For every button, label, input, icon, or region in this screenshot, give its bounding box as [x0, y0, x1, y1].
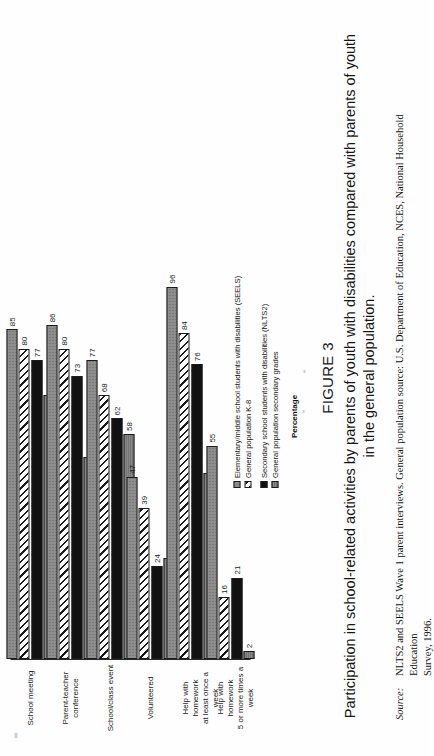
legend-item: Secondary school students with disabilit… — [259, 304, 268, 488]
bar-value-label: 77 — [31, 348, 42, 357]
bar-value-label: 85 — [6, 317, 17, 326]
bar-value-label: 47 — [126, 465, 137, 474]
bar-value-label: 68 — [98, 383, 109, 392]
bar-value-label: 24 — [151, 554, 162, 563]
bar-3-0 — [126, 477, 137, 659]
stipple-gray-swatch — [233, 481, 240, 488]
legend-item-label: General population secondary grades — [270, 351, 279, 478]
bar-4-2 — [191, 364, 202, 659]
bar-value-label: 80 — [18, 337, 29, 346]
legend-item-label: Elementary/middle school students with d… — [232, 276, 241, 478]
source-text-line-1: NLTS2 and SEELS Wave 1 parent interviews… — [392, 76, 420, 676]
bar-5-2 — [231, 578, 242, 659]
bar-5-0 — [206, 446, 217, 659]
legend-column-2: Secondary school students with disabilit… — [259, 304, 281, 488]
bar-value-label: 96 — [166, 275, 177, 284]
bar-2-0 — [86, 360, 97, 659]
bar-1-0 — [46, 325, 57, 659]
bar-5-3 — [243, 651, 254, 659]
bar-value-label: 2 — [243, 644, 254, 648]
figure-caption: Participation in school-related activiti… — [340, 32, 378, 720]
bar-5-1 — [218, 597, 229, 659]
category-label-3: Volunteered — [145, 662, 155, 734]
legend-item-label: General population K-8 — [243, 400, 252, 478]
bar-value-label: 55 — [206, 434, 217, 443]
bar-value-label: 86 — [46, 313, 57, 322]
category-label-0: School meeting — [25, 662, 35, 734]
bar-value-label: 77 — [86, 348, 97, 357]
value-axis-line — [10, 659, 250, 660]
bar-1-1 — [58, 349, 69, 659]
bar-value-label: 62 — [111, 407, 122, 416]
bar-3-2 — [151, 566, 162, 659]
legend-item: General population secondary grades — [270, 304, 279, 488]
category-label-2: School/class event — [105, 662, 115, 734]
bar-value-label: 84 — [178, 321, 189, 330]
plot-area: 8580776886807352776862584739242696847648… — [10, 272, 250, 660]
figure-number: FIGURE 3 — [318, 0, 335, 756]
category-label-4: Help with homeworkat least once a week — [180, 662, 220, 734]
bar-value-label: 39 — [138, 496, 149, 505]
bar-value-label: 76 — [191, 352, 202, 361]
bar-value-label: 21 — [231, 566, 242, 575]
bar-4-1 — [178, 333, 189, 659]
x-axis-title: Percentage — [289, 395, 298, 438]
solid-black-swatch — [260, 481, 267, 488]
solid-gray-swatch — [271, 481, 278, 488]
bar-2-1 — [98, 395, 109, 659]
white-hatch-swatch — [244, 481, 251, 488]
scan-speck — [303, 370, 305, 373]
bar-1-2 — [71, 376, 82, 659]
legend-item: Elementary/middle school students with d… — [232, 276, 241, 488]
legend-column-1: Elementary/middle school students with d… — [232, 276, 254, 488]
bar-value-label: 16 — [218, 585, 229, 594]
figure-source-note: Source:NLTS2 and SEELS Wave 1 parent int… — [392, 20, 434, 720]
category-label-5: Help with homework5 or more times aweek — [215, 662, 255, 734]
bar-4-0 — [166, 287, 177, 659]
bar-0-0 — [6, 329, 17, 659]
source-text-line-2: Survey, 1996. — [420, 20, 434, 676]
bar-0-2 — [31, 360, 42, 659]
bar-3-1 — [138, 508, 149, 659]
legend-item: General population K-8 — [243, 276, 252, 488]
bar-value-label: 73 — [71, 364, 82, 373]
bar-value-label: 80 — [58, 337, 69, 346]
scan-speck — [302, 410, 304, 413]
bar-2-2 — [111, 418, 122, 659]
source-label: Source: — [392, 676, 406, 720]
category-label-1: Parent-teacherconference — [60, 662, 80, 734]
legend-item-label: Secondary school students with disabilit… — [259, 304, 268, 478]
bar-value-label: 58 — [123, 422, 134, 431]
bar-0-1 — [18, 349, 29, 659]
scan-speck — [14, 733, 17, 738]
